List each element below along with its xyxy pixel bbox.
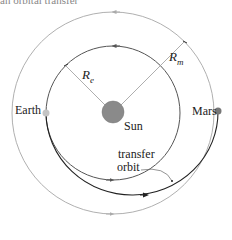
mars-label: Mars [192, 105, 217, 117]
transfer-orbit-label-line2: orbit [117, 161, 140, 173]
leader-dot [171, 180, 173, 182]
sun-label: Sun [124, 120, 143, 132]
earth-icon [43, 110, 50, 117]
r-mars-label: Rm [169, 50, 183, 67]
sun-icon [102, 101, 124, 123]
transfer-orbit-label-line1: transfer [118, 148, 155, 160]
earth-label: Earth [15, 104, 41, 116]
r-earth-label: Re [82, 68, 94, 85]
